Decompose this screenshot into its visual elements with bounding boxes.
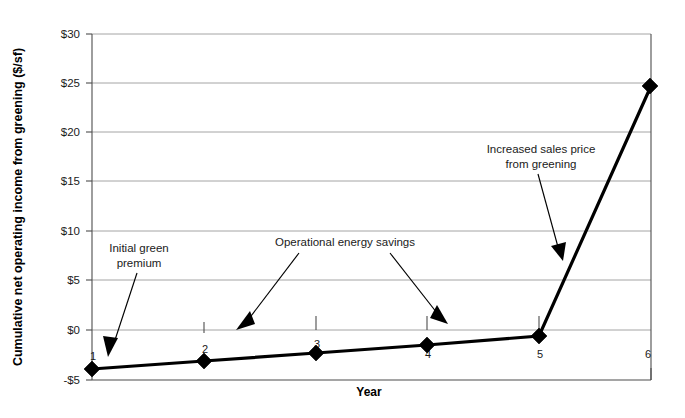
x-tick-label-2: 2 bbox=[202, 343, 208, 355]
data-point-year-2 bbox=[196, 353, 212, 369]
annotation-initial-green-premium-line-1: Initial green bbox=[109, 242, 168, 254]
annotation-operational-energy-savings-label: Operational energy savings bbox=[275, 236, 415, 248]
annotation-initial-green-premium-arrowhead-icon bbox=[103, 336, 118, 357]
annotation-operational-energy-savings-leader-left bbox=[248, 253, 299, 320]
x-tick-label-5: 5 bbox=[537, 348, 543, 360]
annotation-increased-sales-price-leader bbox=[538, 174, 558, 247]
annotation-initial-green-premium: Initial green premium bbox=[103, 242, 169, 357]
annotation-increased-sales-price-arrowhead-icon bbox=[551, 242, 566, 261]
annotation-operational-energy-savings: Operational energy savings bbox=[236, 236, 448, 330]
axes bbox=[92, 34, 651, 380]
x-tick-label-1: 1 bbox=[90, 350, 96, 362]
y-tick-label-10: $10 bbox=[61, 225, 80, 237]
series-line-cumulative-noi bbox=[92, 86, 651, 369]
y-tick-label-20: $20 bbox=[61, 126, 80, 138]
series-markers bbox=[84, 78, 658, 377]
y-tick-label-0: $0 bbox=[67, 324, 80, 336]
gridlines bbox=[92, 34, 651, 330]
y-axis-title: Cumulative net operating income from gre… bbox=[11, 48, 25, 366]
annotation-operational-energy-savings-leader-right bbox=[390, 253, 437, 313]
y-tick-label-5: $5 bbox=[67, 274, 80, 286]
chart-container: $30 $25 $20 $15 $10 $5 $0 -$5 1 2 3 4 5 … bbox=[0, 0, 685, 418]
y-tick-label-30: $30 bbox=[61, 28, 80, 40]
annotation-increased-sales-price-line-2: from greening bbox=[506, 158, 577, 170]
data-point-year-1 bbox=[84, 361, 100, 377]
y-tick-label-neg5: -$5 bbox=[63, 374, 80, 386]
data-point-year-3 bbox=[308, 345, 324, 361]
y-tick-marks bbox=[86, 34, 92, 380]
y-tick-labels: $30 $25 $20 $15 $10 $5 $0 -$5 bbox=[61, 28, 80, 386]
data-point-year-4 bbox=[419, 337, 435, 353]
annotation-initial-green-premium-line-2: premium bbox=[117, 257, 162, 269]
data-point-year-6 bbox=[642, 78, 658, 94]
annotation-increased-sales-price-line-1: Increased sales price bbox=[487, 143, 596, 155]
x-tick-label-6: 6 bbox=[645, 348, 651, 360]
y-tick-label-25: $25 bbox=[61, 77, 80, 89]
cumulative-noi-line-chart: $30 $25 $20 $15 $10 $5 $0 -$5 1 2 3 4 5 … bbox=[0, 0, 685, 418]
x-axis-title: Year bbox=[356, 385, 382, 399]
annotation-initial-green-premium-leader bbox=[114, 273, 137, 343]
y-tick-label-15: $15 bbox=[61, 175, 80, 187]
